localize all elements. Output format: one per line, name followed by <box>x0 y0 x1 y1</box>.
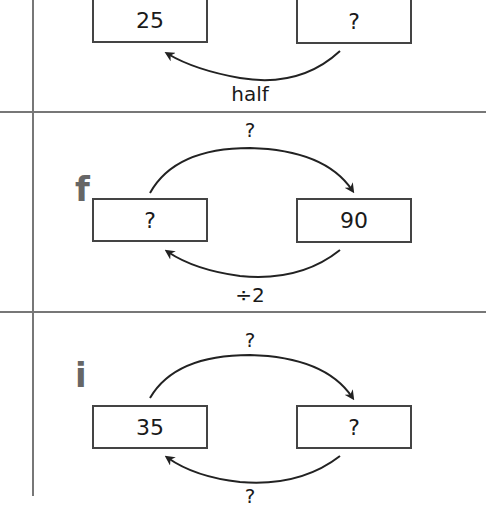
left-box-value: 35 <box>136 415 164 440</box>
bottom-arrow-f <box>168 250 340 277</box>
bottom-operation-f: ÷2 <box>235 283 264 307</box>
top-arrow-i <box>150 355 352 398</box>
right-box-value: 90 <box>340 208 368 233</box>
top-operation-f[interactable]: ? <box>245 118 256 142</box>
left-box-value: 25 <box>136 8 164 33</box>
bottom-arrow-1 <box>168 51 340 80</box>
problem-letter-f: f <box>75 172 90 206</box>
bottom-arrow-i <box>168 456 340 483</box>
bottom-operation-1: half <box>231 82 269 106</box>
right-box-f: 90 <box>296 198 412 243</box>
left-box-i: 35 <box>92 405 208 449</box>
bottom-operation-i[interactable]: ? <box>245 484 256 507</box>
left-box-1: 25 <box>92 0 208 43</box>
right-box-1[interactable]: ? <box>296 0 412 44</box>
right-box-value: ? <box>348 415 360 440</box>
right-box-value: ? <box>348 9 360 34</box>
problem-letter-i: i <box>75 358 87 392</box>
left-box-f[interactable]: ? <box>92 198 208 242</box>
top-operation-i[interactable]: ? <box>245 328 256 352</box>
right-box-i[interactable]: ? <box>296 405 412 449</box>
top-arrow-f <box>150 148 352 193</box>
left-box-value: ? <box>144 208 156 233</box>
